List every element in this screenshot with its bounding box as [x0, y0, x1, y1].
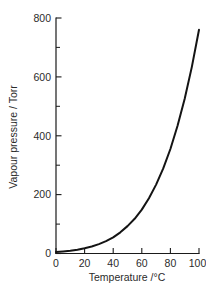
- chart-canvas: 800 600 400 200 0 0 20 40 60 80 100 Temp…: [0, 0, 206, 291]
- y-tick-label-400: 400: [33, 130, 51, 142]
- vapour-pressure-chart: 800 600 400 200 0 0 20 40 60 80 100 Temp…: [0, 0, 206, 291]
- y-tick-label-800: 800: [33, 12, 51, 24]
- x-tick-label-40: 40: [107, 257, 119, 269]
- y-axis-tick-labels: 800 600 400 200 0: [33, 12, 51, 259]
- y-tick-label-200: 200: [33, 188, 51, 200]
- x-tick-label-20: 20: [79, 257, 91, 269]
- x-tick-label-0: 0: [53, 257, 59, 269]
- x-tick-label-100: 100: [189, 257, 206, 269]
- x-tick-label-60: 60: [136, 257, 148, 269]
- y-axis-title: Vapour pressure / Torr: [7, 85, 19, 189]
- y-tick-label-600: 600: [33, 71, 51, 83]
- x-axis-title: Temperature /°C: [89, 271, 166, 283]
- x-axis-tick-labels: 0 20 40 60 80 100: [53, 257, 206, 269]
- vapour-pressure-curve: [56, 30, 199, 252]
- y-axis-major-ticks: [56, 18, 62, 254]
- x-tick-label-80: 80: [165, 257, 177, 269]
- y-tick-label-0: 0: [45, 247, 51, 259]
